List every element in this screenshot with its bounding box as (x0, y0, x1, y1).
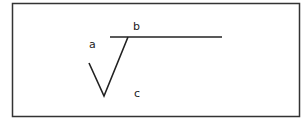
label-c: c (134, 87, 140, 100)
label-b: b (133, 20, 140, 33)
diagram-frame (13, 4, 300, 117)
label-a: a (89, 38, 96, 51)
diagram-canvas: a b c (0, 0, 308, 120)
